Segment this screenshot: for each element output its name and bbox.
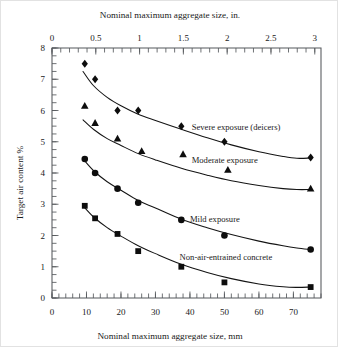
- data-point-triangle: [224, 166, 232, 173]
- bottom-tick-label: 40: [185, 307, 195, 317]
- data-point-diamond: [308, 153, 314, 161]
- data-point-triangle: [114, 135, 122, 142]
- series-label-2: Mild exposure: [190, 214, 240, 224]
- bottom-tick-label: 10: [82, 307, 92, 317]
- data-point-triangle: [179, 150, 187, 157]
- top-tick-label: 1.5: [178, 33, 190, 43]
- data-point-square: [178, 264, 184, 270]
- top-tick-label: 0: [50, 33, 55, 43]
- curve-0: [83, 71, 311, 158]
- left-tick-label: 1: [41, 262, 46, 272]
- series-label-0: Severe exposure (deicers): [192, 122, 281, 132]
- top-tick-label: 3: [313, 33, 318, 43]
- data-point-circle: [178, 217, 185, 224]
- left-tick-label: 0: [41, 293, 46, 303]
- data-point-square: [92, 215, 98, 221]
- left-tick-label: 2: [41, 231, 46, 241]
- bottom-tick-label: 30: [151, 307, 161, 317]
- bottom-tick-label: 60: [254, 307, 264, 317]
- series-label-1: Moderate exposure: [192, 155, 258, 165]
- data-point-square: [308, 284, 314, 290]
- data-point-triangle: [91, 119, 99, 126]
- left-axis-ticks: 012345678: [41, 43, 59, 303]
- bottom-tick-label: 0: [50, 307, 55, 317]
- bottom-tick-label: 70: [289, 307, 299, 317]
- data-point-diamond: [114, 107, 120, 115]
- left-tick-label: 8: [41, 43, 46, 53]
- left-tick-label: 3: [41, 199, 46, 209]
- data-point-circle: [221, 232, 228, 239]
- left-tick-label: 5: [41, 137, 46, 147]
- top-tick-label: 1: [137, 33, 142, 43]
- top-tick-label: 2.5: [265, 33, 277, 43]
- top-tick-label: 0.5: [90, 33, 102, 43]
- left-axis-title: Target air content %: [15, 145, 25, 220]
- data-point-triangle: [307, 185, 315, 192]
- bottom-axis-ticks: 010203040506070: [50, 292, 321, 318]
- data-point-circle: [135, 199, 142, 206]
- data-point-square: [135, 248, 141, 254]
- left-tick-label: 4: [41, 168, 46, 178]
- air-content-vs-aggregate-size-chart: Nominal maximum aggregate size, in. Nomi…: [1, 1, 338, 347]
- top-axis-ticks: 00.511.522.53: [50, 33, 318, 55]
- left-tick-label: 7: [41, 74, 46, 84]
- series-label-3: Non-air-entrained concrete: [180, 252, 273, 262]
- series-inline-labels: Severe exposure (deicers)Moderate exposu…: [180, 122, 281, 262]
- chart-figure: Nominal maximum aggregate size, in. Nomi…: [0, 0, 338, 347]
- data-point-diamond: [92, 75, 98, 83]
- bottom-tick-label: 50: [220, 307, 230, 317]
- data-point-circle: [81, 156, 88, 163]
- top-tick-label: 2: [225, 33, 230, 43]
- data-point-circle: [92, 170, 99, 177]
- top-axis-title: Nominal maximum aggregate size, in.: [100, 10, 240, 20]
- data-point-square: [82, 203, 88, 209]
- data-point-circle: [307, 246, 314, 253]
- data-point-diamond: [82, 60, 88, 68]
- data-point-square: [222, 279, 228, 285]
- data-point-circle: [114, 185, 121, 192]
- data-point-triangle: [81, 102, 89, 109]
- bottom-axis-title: Nominal maximum aggregate size, mm: [97, 331, 242, 341]
- data-point-square: [115, 231, 121, 237]
- data-point-triangle: [138, 147, 146, 154]
- left-tick-label: 6: [41, 106, 46, 116]
- data-point-diamond: [221, 138, 227, 146]
- bottom-tick-label: 20: [116, 307, 126, 317]
